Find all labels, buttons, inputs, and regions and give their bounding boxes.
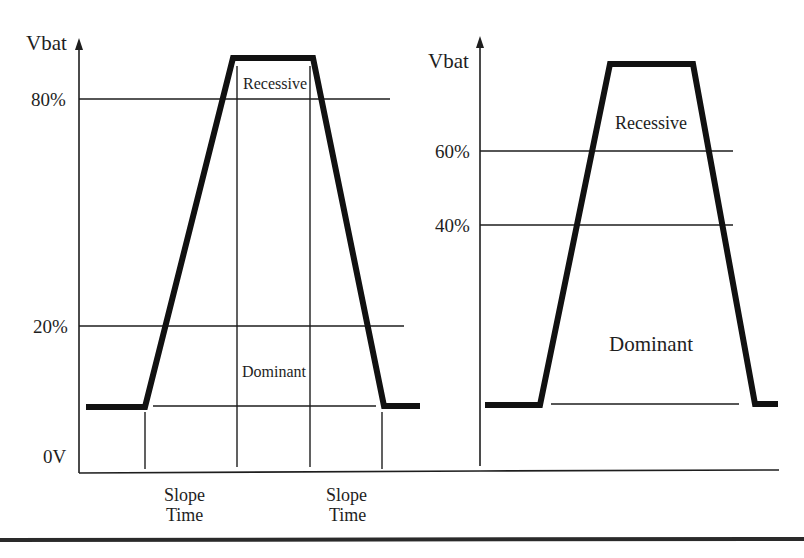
left-y-axis-arrow-icon [75,38,83,50]
right-y-axis-arrow-icon [476,36,484,48]
right-recessive-label: Recessive [615,113,687,133]
slope-time-label-1-line1: Slope [164,485,205,505]
left-dominant-label: Dominant [242,363,307,380]
left-x-axis [79,471,480,473]
slope-time-label-2-line2: Time [329,505,366,525]
right-vbat-label: Vbat [428,49,469,73]
slope-time-label-2-line1: Slope [326,485,367,505]
right-dominant-label: Dominant [609,332,693,356]
right-threshold-label-60: 60% [435,141,470,162]
right-threshold-label-40: 40% [435,215,470,236]
left-zero-label: 0V [43,446,67,467]
left-waveform [86,58,420,407]
left-threshold-label-20: 20% [33,316,68,337]
slope-time-diagram: Vbat 80% 20% 0V Recessive Dominant Slope… [0,0,804,558]
bottom-divider [0,539,804,540]
slope-time-label-1-line2: Time [166,505,203,525]
right-diagram: Vbat 60% 40% Recessive Dominant [428,36,779,471]
left-recessive-label: Recessive [243,75,307,92]
right-x-axis [480,470,779,471]
left-diagram: Vbat 80% 20% 0V Recessive Dominant Slope… [26,31,480,525]
left-vbat-label: Vbat [26,31,67,55]
left-threshold-label-80: 80% [31,89,66,110]
